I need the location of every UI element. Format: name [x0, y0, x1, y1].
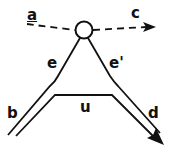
label-e-prime: e'	[109, 56, 124, 71]
label-u: u	[80, 100, 91, 115]
feynman-diagram	[0, 0, 170, 150]
arrowhead-d-icon	[147, 128, 164, 145]
label-b: b	[7, 106, 18, 121]
label-c: c	[131, 6, 140, 21]
label-d: d	[148, 106, 159, 121]
line-e-outer	[8, 38, 80, 135]
label-a: a	[27, 8, 37, 23]
dashed-line-a	[27, 24, 75, 30]
vertex-circle	[76, 22, 93, 39]
dashed-line-c	[93, 27, 146, 30]
label-e: e	[47, 56, 57, 71]
